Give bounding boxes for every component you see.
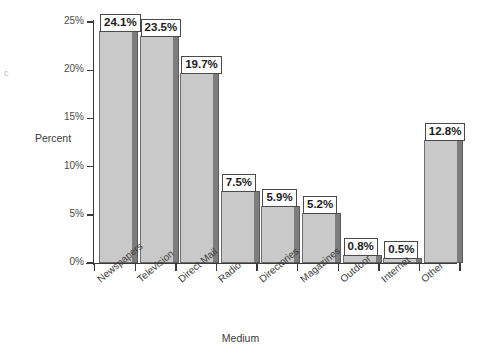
y-tick-label: 25% xyxy=(0,15,84,26)
bar-body xyxy=(140,36,174,263)
bar-body xyxy=(424,140,458,263)
bar-value-label: 12.8% xyxy=(425,123,466,141)
bar xyxy=(221,191,260,263)
x-tick xyxy=(419,263,420,271)
y-axis-title: Percent xyxy=(18,132,88,144)
bar-shadow-edge xyxy=(376,255,382,263)
bar-chart: c Percent Medium 24.1%23.5%19.7%7.5%5.9%… xyxy=(0,0,481,358)
bar-shadow-edge xyxy=(213,73,219,263)
y-tick-label: 0% xyxy=(0,256,84,267)
x-tick xyxy=(216,263,217,271)
y-tick-label: 20% xyxy=(0,63,84,74)
x-tick xyxy=(297,263,298,271)
bar-shadow-edge xyxy=(173,36,179,263)
bar-shadow-edge xyxy=(132,31,138,263)
y-tick-mark xyxy=(87,262,93,263)
bar-body xyxy=(99,31,133,263)
y-tick-mark xyxy=(87,118,93,119)
x-tick xyxy=(175,263,176,271)
bar-value-label: 23.5% xyxy=(141,19,182,37)
bar-value-label: 0.8% xyxy=(344,238,378,256)
x-tick xyxy=(135,263,136,271)
bar-value-label: 5.9% xyxy=(262,189,296,207)
x-axis-title: Medium xyxy=(0,332,481,344)
y-tick-mark xyxy=(87,214,93,215)
bar-shadow-edge xyxy=(254,191,260,263)
x-tick xyxy=(94,263,95,271)
bar-value-label: 24.1% xyxy=(100,14,141,32)
y-tick-label: 10% xyxy=(0,160,84,171)
bar xyxy=(99,31,138,263)
bar-body xyxy=(221,191,255,263)
x-tick xyxy=(378,263,379,271)
y-tick-label: 5% xyxy=(0,208,84,219)
y-tick-mark xyxy=(87,70,93,71)
bar-shadow-edge xyxy=(457,140,463,263)
x-tick xyxy=(459,263,460,271)
x-tick xyxy=(338,263,339,271)
y-tick-label: 15% xyxy=(0,111,84,122)
bar-value-label: 19.7% xyxy=(181,56,222,74)
bar-value-label: 5.2% xyxy=(303,196,337,214)
bar-value-label: 7.5% xyxy=(222,174,256,192)
y-tick-mark xyxy=(87,166,93,167)
bar xyxy=(424,140,463,263)
x-tick xyxy=(256,263,257,271)
bar xyxy=(140,36,179,263)
plot-area: 24.1%23.5%19.7%7.5%5.9%5.2%0.8%0.5%12.8% xyxy=(93,22,457,263)
y-tick-mark xyxy=(87,21,93,22)
bar-body xyxy=(180,73,214,263)
bar xyxy=(180,73,219,263)
